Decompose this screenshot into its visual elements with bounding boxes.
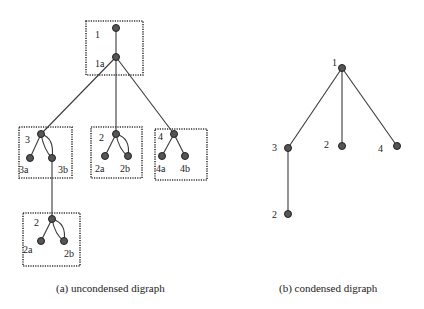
- node-2: [113, 131, 120, 138]
- edge-c1-c3: [288, 68, 342, 148]
- panel-condensed: 1 3 2 4 2 (b) condensed digraph: [272, 57, 401, 295]
- label-1: 1: [95, 29, 100, 40]
- node-m2b: [61, 238, 68, 245]
- label-4b: 4b: [180, 163, 190, 174]
- node-c2: [339, 143, 346, 150]
- label-1a: 1a: [95, 58, 105, 69]
- edge-1a-3: [41, 57, 116, 134]
- digraph-figure: 1 1a 3 3a 3b 2 2a 2b 4 4a 4b 2 2a 2b (a)…: [0, 0, 424, 309]
- node-2b: [125, 153, 132, 160]
- label-c3: 3: [272, 142, 277, 153]
- node-2a: [102, 153, 109, 160]
- node-3: [38, 131, 45, 138]
- label-4a: 4a: [156, 163, 166, 174]
- node-3b: [49, 155, 56, 162]
- node-c4: [394, 143, 401, 150]
- node-c2low: [285, 211, 292, 218]
- node-m2: [49, 216, 56, 223]
- panel-uncondensed: 1 1a 3 3a 3b 2 2a 2b 4 4a 4b 2 2a 2b (a)…: [19, 21, 207, 295]
- node-4: [171, 131, 178, 138]
- edge-c1-c4: [342, 68, 397, 146]
- label-m2b: 2b: [64, 248, 74, 259]
- label-m2a: 2a: [23, 244, 33, 255]
- label-c4: 4: [378, 143, 383, 154]
- node-c3: [285, 145, 292, 152]
- node-1: [113, 25, 120, 32]
- label-c2low: 2: [272, 209, 277, 220]
- label-3b: 3b: [58, 164, 68, 175]
- node-1a: [113, 54, 120, 61]
- label-2a: 2a: [95, 163, 105, 174]
- label-4: 4: [158, 131, 163, 142]
- node-4a: [159, 153, 166, 160]
- label-c2: 2: [324, 139, 329, 150]
- label-3a: 3a: [19, 164, 29, 175]
- label-m2: 2: [34, 217, 39, 228]
- label-3: 3: [25, 134, 30, 145]
- node-m2a: [38, 238, 45, 245]
- node-c1: [339, 65, 346, 72]
- caption-uncondensed: (a) uncondensed digraph: [56, 282, 165, 295]
- label-2: 2: [99, 132, 104, 143]
- node-4b: [182, 153, 189, 160]
- label-c1: 1: [332, 57, 337, 68]
- caption-condensed: (b) condensed digraph: [279, 282, 378, 295]
- edge-1a-4: [116, 57, 174, 134]
- label-2b: 2b: [120, 163, 130, 174]
- node-3a: [27, 155, 34, 162]
